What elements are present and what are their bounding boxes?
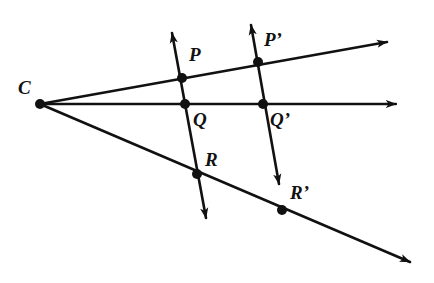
point-label-p: P xyxy=(189,45,201,64)
point-dot-p1 xyxy=(253,57,263,67)
point-label-q: Q xyxy=(193,110,207,129)
point-dot-r1 xyxy=(277,205,287,215)
points-group xyxy=(35,57,287,215)
point-dot-c xyxy=(35,99,45,109)
point-dot-r xyxy=(192,169,202,179)
point-label-r: R xyxy=(205,150,218,169)
point-label-r1: R’ xyxy=(290,183,309,202)
point-label-p1: P’ xyxy=(264,30,282,49)
geometry-figure: CPQRP’Q’R’ xyxy=(0,0,434,283)
geometry-canvas xyxy=(0,0,434,283)
point-dot-q xyxy=(180,99,190,109)
point-label-c: C xyxy=(18,78,31,97)
point-label-q1: Q’ xyxy=(270,110,290,129)
ray-through-R-and-R-prime xyxy=(40,104,410,262)
ray-through-P-and-P-prime xyxy=(40,42,387,104)
point-dot-q1 xyxy=(258,99,268,109)
rays-from-center-group xyxy=(40,42,410,262)
point-dot-p xyxy=(177,73,187,83)
